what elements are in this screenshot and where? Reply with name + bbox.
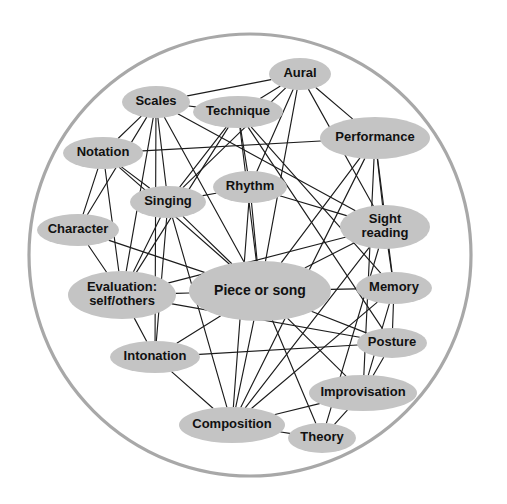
node-improvisation[interactable]: Improvisation (309, 375, 417, 411)
node-shape-scales[interactable] (122, 86, 190, 118)
node-posture[interactable]: Posture (357, 328, 427, 358)
node-aural[interactable]: Aural (269, 58, 331, 90)
node-shape-notation[interactable] (63, 137, 143, 169)
node-sight[interactable]: Sightreading (340, 205, 430, 249)
node-character[interactable]: Character (37, 214, 119, 246)
node-shape-evaluation[interactable] (68, 271, 176, 319)
node-shape-singing[interactable] (130, 186, 206, 218)
node-shape-technique[interactable] (193, 96, 283, 128)
node-rhythm[interactable]: Rhythm (213, 171, 287, 203)
node-shape-memory[interactable] (356, 272, 432, 304)
node-piece[interactable]: Piece or song (189, 261, 331, 321)
node-shape-theory[interactable] (288, 423, 356, 453)
node-shape-sight[interactable] (340, 205, 430, 249)
node-shape-composition[interactable] (179, 407, 285, 443)
node-shape-posture[interactable] (357, 328, 427, 358)
node-shape-improvisation[interactable] (309, 375, 417, 411)
network-diagram-canvas: AuralScalesTechniquePerformanceNotationR… (0, 0, 507, 504)
node-intonation[interactable]: Intonation (110, 341, 200, 373)
node-composition[interactable]: Composition (179, 407, 285, 443)
node-evaluation[interactable]: Evaluation:self/others (68, 271, 176, 319)
node-notation[interactable]: Notation (63, 137, 143, 169)
node-performance[interactable]: Performance (320, 117, 430, 159)
node-singing[interactable]: Singing (130, 186, 206, 218)
node-scales[interactable]: Scales (122, 86, 190, 118)
node-shape-piece[interactable] (189, 261, 331, 321)
node-shape-rhythm[interactable] (213, 171, 287, 203)
edge-piece-memory (331, 289, 356, 290)
node-shape-intonation[interactable] (110, 341, 200, 373)
network-diagram-svg: AuralScalesTechniquePerformanceNotationR… (0, 0, 507, 504)
node-technique[interactable]: Technique (193, 96, 283, 128)
node-shape-character[interactable] (37, 214, 119, 246)
node-shape-performance[interactable] (320, 117, 430, 159)
node-memory[interactable]: Memory (356, 272, 432, 304)
node-theory[interactable]: Theory (288, 423, 356, 453)
node-shape-aural[interactable] (269, 58, 331, 90)
edge-scales-technique (189, 106, 196, 107)
